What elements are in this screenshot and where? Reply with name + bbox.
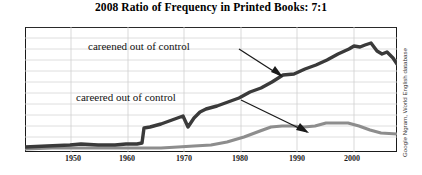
- annotation-label-careered: careered out of control: [76, 91, 176, 103]
- x-axis-tick-1970: 1970: [176, 154, 192, 163]
- x-axis-tick-2000: 2000: [344, 154, 360, 163]
- source-credit-text: Google Ngram, World English database: [401, 145, 408, 157]
- plot-canvas: [25, 27, 397, 152]
- x-axis-tick-1980: 1980: [232, 154, 248, 163]
- source-credit: Google Ngram, World English database: [399, 27, 411, 152]
- x-axis-tick-1950: 1950: [65, 154, 81, 163]
- x-axis-tick-1990: 1990: [289, 154, 305, 163]
- annotation-arrow-careened: [239, 49, 283, 77]
- annotation-label-careened: careened out of control: [88, 40, 190, 52]
- x-axis-tick-1960: 1960: [119, 154, 135, 163]
- chart-screenshot: 2008 Ratio of Frequency in Printed Books…: [0, 0, 422, 175]
- chart-title: 2008 Ratio of Frequency in Printed Books…: [0, 1, 422, 13]
